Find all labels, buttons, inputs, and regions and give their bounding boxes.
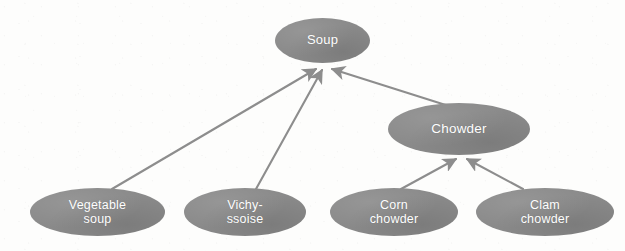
node-chowder: Chowder bbox=[388, 103, 530, 155]
node-vegetable-soup-label: Vegetable soup bbox=[63, 198, 132, 226]
node-vichyssoise-label: Vichy- ssoise bbox=[221, 198, 270, 226]
edge-clam-chowder-to-chowder bbox=[467, 159, 523, 189]
edge-vegetable-soup-to-soup bbox=[112, 69, 316, 189]
edge-chowder-to-soup bbox=[332, 69, 452, 107]
node-vegetable-soup: Vegetable soup bbox=[30, 188, 165, 236]
node-soup: Soup bbox=[275, 18, 370, 63]
edge-vichyssoise-to-soup bbox=[256, 70, 322, 189]
node-clam-chowder-label: Clam chowder bbox=[515, 198, 576, 226]
node-vichyssoise: Vichy- ssoise bbox=[184, 188, 306, 236]
node-soup-label: Soup bbox=[301, 33, 344, 48]
node-clam-chowder: Clam chowder bbox=[476, 188, 614, 236]
edge-corn-chowder-to-chowder bbox=[401, 159, 456, 189]
node-corn-chowder-label: Corn chowder bbox=[364, 198, 425, 226]
node-chowder-label: Chowder bbox=[425, 121, 492, 136]
taxonomy-diagram: Soup Chowder Vegetable soup Vichy- ssois… bbox=[0, 0, 625, 251]
node-corn-chowder: Corn chowder bbox=[330, 188, 458, 236]
